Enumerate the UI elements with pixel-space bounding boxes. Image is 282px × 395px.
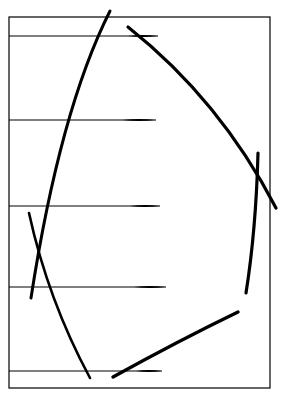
line-drawing-canvas bbox=[0, 0, 282, 395]
background bbox=[0, 0, 282, 395]
